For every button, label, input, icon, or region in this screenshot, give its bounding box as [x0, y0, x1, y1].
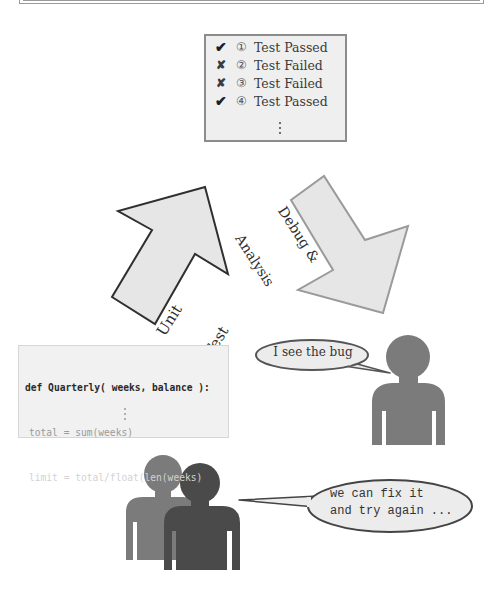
developer-person-icon — [372, 335, 445, 445]
code-snippet-panel: def Quarterly( weeks, balance ): total =… — [18, 345, 229, 438]
team-speech-line1: we can fix it — [330, 486, 460, 503]
cross-icon: ✘ — [206, 58, 236, 72]
test-number: ① — [236, 40, 254, 54]
test-number: ② — [236, 58, 254, 72]
code-line: limit = total/float(len(weeks) — [25, 470, 222, 485]
test-status-label: Test Passed — [254, 94, 328, 109]
code-line: def Quarterly( weeks, balance ): — [25, 380, 222, 395]
developer-speech-text: I see the bug — [268, 345, 358, 359]
test-result-row: ✘ ② Test Failed — [206, 56, 345, 74]
test-status-label: Test Passed — [254, 40, 328, 55]
check-icon: ✔ — [206, 93, 236, 109]
team-speech-text: we can fix it and try again ... — [320, 486, 460, 520]
unit-test-label-line1: Unit — [154, 297, 189, 339]
test-number: ④ — [236, 94, 254, 108]
more-results-ellipsis-icon — [278, 122, 282, 134]
cross-icon: ✘ — [206, 76, 236, 90]
debug-label-line1: Debug & — [274, 204, 323, 266]
test-status-label: Test Failed — [254, 58, 323, 73]
test-result-row: ✘ ③ Test Failed — [206, 74, 345, 92]
test-number: ③ — [236, 76, 254, 90]
team-speech-line2: and try again ... — [330, 503, 460, 520]
check-icon: ✔ — [206, 39, 236, 55]
more-code-ellipsis-icon — [123, 408, 127, 420]
test-result-row: ✔ ① Test Passed — [206, 38, 345, 56]
test-results-panel: ✔ ① Test Passed ✘ ② Test Failed ✘ ③ Test… — [204, 34, 347, 142]
code-line: total = sum(weeks) — [25, 425, 222, 440]
debug-label-line2: Analysis — [231, 231, 280, 293]
test-status-label: Test Failed — [254, 76, 323, 91]
test-result-row: ✔ ④ Test Passed — [206, 92, 345, 110]
